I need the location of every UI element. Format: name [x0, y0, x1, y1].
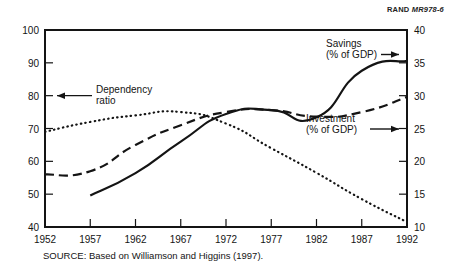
line-chart: 100 90 80 70 60 50 40 40 35 30 25 20 15 …: [0, 0, 452, 276]
annotation-investment-line2: (% of GDP): [306, 124, 357, 135]
left-tick-label: 70: [28, 124, 40, 135]
left-tick-label: 80: [28, 91, 40, 102]
left-arrow-icon: [57, 92, 65, 99]
x-tick-label: 1972: [215, 234, 238, 245]
rand-figure-tag: RAND MR978-6: [387, 5, 444, 14]
x-tick-label: 1992: [396, 234, 419, 245]
left-tick-label: 100: [22, 25, 39, 36]
left-axis-labels: 100 90 80 70 60 50 40: [22, 25, 39, 233]
annotation-dependency-line1: Dependency: [96, 84, 152, 95]
x-axis-labels: 1952 1957 1962 1967 1972 1977 1982 1987 …: [34, 234, 419, 245]
left-tick-label: 90: [28, 58, 40, 69]
x-tick-label: 1962: [124, 234, 147, 245]
series-investment: [45, 97, 407, 176]
rand-figure-code: MR978-6: [412, 5, 444, 14]
x-tick-label: 1967: [170, 234, 193, 245]
series-savings: [90, 61, 407, 196]
right-tick-label: 35: [414, 58, 426, 69]
x-tick-label: 1957: [79, 234, 102, 245]
annotation-investment: Investment (% of GDP): [306, 113, 399, 135]
x-tick-label: 1987: [351, 234, 374, 245]
right-tick-label: 25: [414, 124, 426, 135]
source-note: SOURCE: Based on Williamson and Higgins …: [43, 250, 263, 261]
right-tick-label: 20: [414, 156, 426, 167]
annotation-dependency-line2: ratio: [96, 95, 116, 106]
x-tick-label: 1977: [260, 234, 283, 245]
annotation-investment-line1: Investment: [306, 113, 355, 124]
left-tick-label: 60: [28, 156, 40, 167]
annotation-dependency-ratio: Dependency ratio: [57, 84, 152, 106]
right-tick-label: 10: [414, 222, 426, 233]
annotation-savings-line1: Savings: [326, 38, 362, 49]
x-tick-label: 1952: [34, 234, 57, 245]
annotation-savings: Savings (% of GDP): [326, 38, 399, 60]
right-arrow-icon: [391, 51, 399, 58]
left-tick-label: 50: [28, 189, 40, 200]
right-arrow-icon: [391, 126, 399, 133]
left-tick-label: 40: [28, 222, 40, 233]
right-axis-labels: 40 35 30 25 20 15 10: [414, 25, 426, 233]
x-tick-label: 1982: [305, 234, 328, 245]
right-tick-label: 30: [414, 91, 426, 102]
rand-org-label: RAND: [387, 5, 409, 14]
x-axis-ticks: [45, 219, 407, 227]
right-tick-label: 40: [414, 25, 426, 36]
figure-container: RAND MR978-6: [0, 0, 452, 276]
annotation-savings-line2: (% of GDP): [326, 49, 377, 60]
right-tick-label: 15: [414, 189, 426, 200]
right-axis-ticks: [399, 63, 407, 194]
